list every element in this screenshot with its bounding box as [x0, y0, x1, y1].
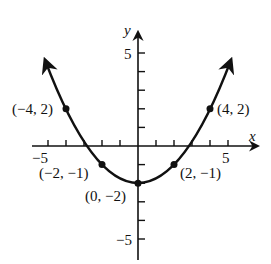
- point-0-neg2: [135, 180, 142, 187]
- point-label-neg4-2: (−4, 2): [12, 101, 53, 118]
- x-axis-label: x: [248, 128, 256, 144]
- y-max-label: 5: [124, 46, 132, 62]
- point-label-neg2-neg1: (−2, −1): [39, 165, 88, 182]
- point-neg4-2: [63, 105, 70, 112]
- y-min-label: −5: [116, 232, 132, 248]
- x-min-label: −5: [32, 150, 48, 166]
- point-label-2-neg1: (2, −1): [180, 165, 221, 182]
- point-neg2-neg1: [99, 161, 106, 168]
- y-axis-label: y: [122, 22, 131, 38]
- point-4-2: [207, 105, 214, 112]
- point-label-0-neg2: (0, −2): [85, 188, 126, 205]
- point-2-neg1: [171, 161, 178, 168]
- parabola-graph: y x 5 −5 −5 5 (−4, 2) (4, 2) (−2, −1) (2…: [0, 0, 271, 264]
- x-max-label: 5: [222, 150, 230, 166]
- point-label-4-2: (4, 2): [217, 101, 250, 118]
